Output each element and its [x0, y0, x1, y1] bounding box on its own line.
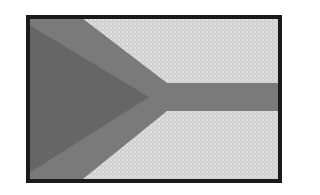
flag-graphic [26, 15, 282, 183]
flag-image [26, 15, 282, 183]
